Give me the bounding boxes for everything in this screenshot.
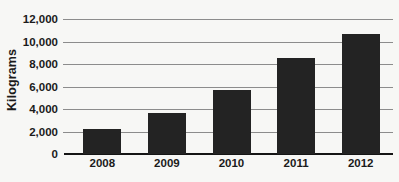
y-axis-tick-label: 12,000 xyxy=(0,13,58,25)
x-axis-tick-label: 2009 xyxy=(135,157,200,169)
y-axis-tick-mark xyxy=(63,87,70,88)
bar xyxy=(148,113,186,154)
bar-chart: Kilograms 02,0004,0006,0008,00010,00012,… xyxy=(0,0,399,182)
y-axis-tick-mark xyxy=(63,64,70,65)
y-axis-tick-mark xyxy=(63,109,70,110)
x-axis-tick-labels: 20082009201020112012 xyxy=(70,157,393,179)
y-axis-tick-label: 0 xyxy=(0,148,58,160)
y-axis-tick-mark xyxy=(63,19,70,20)
bar xyxy=(342,34,380,154)
y-axis-tick-label: 8,000 xyxy=(0,58,58,70)
y-axis-tick-mark xyxy=(63,132,70,133)
bar xyxy=(277,58,315,154)
y-axis-tick-label: 10,000 xyxy=(0,36,58,48)
x-axis-tick-label: 2011 xyxy=(264,157,329,169)
bar xyxy=(213,90,251,154)
bars xyxy=(70,19,393,154)
y-axis-tick-label: 2,000 xyxy=(0,126,58,138)
bar-group xyxy=(83,19,121,154)
bar xyxy=(83,129,121,154)
x-axis-tick-label: 2008 xyxy=(70,157,135,169)
y-axis-tick-label: 4,000 xyxy=(0,103,58,115)
bar-group xyxy=(342,19,380,154)
x-axis-tick-label: 2012 xyxy=(328,157,393,169)
bar-group xyxy=(277,19,315,154)
y-axis-tick-mark xyxy=(63,42,70,43)
bar-group xyxy=(148,19,186,154)
x-axis-tick-label: 2010 xyxy=(199,157,264,169)
y-axis-tick-label: 6,000 xyxy=(0,81,58,93)
plot-area: 02,0004,0006,0008,00010,00012,000 xyxy=(70,19,393,154)
bar-group xyxy=(213,19,251,154)
